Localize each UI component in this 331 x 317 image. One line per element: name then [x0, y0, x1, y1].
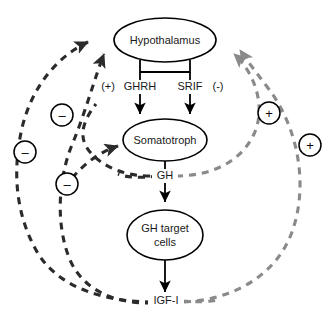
diagram-canvas: Hypothalamus Somatotroph GH target cells…	[0, 0, 331, 317]
label-igf1: IGF-I	[153, 294, 178, 306]
node-somatotroph-label: Somatotroph	[134, 134, 197, 146]
label-ghrh-sign: (+)	[101, 80, 115, 92]
label-srif: SRIF	[177, 80, 202, 92]
label-srif-sign: (-)	[213, 80, 224, 92]
badge-minus-outer-left-label: –	[21, 145, 29, 160]
node-hypothalamus-label: Hypothalamus	[130, 34, 201, 46]
node-gh-target-cells-label-line1: GH target	[141, 222, 189, 234]
badge-minus-upper-left-label: –	[58, 108, 66, 123]
edge-to-somatotroph-dashed	[72, 146, 118, 178]
label-gh: GH	[157, 169, 174, 181]
badge-plus-inner-right-label: +	[265, 106, 273, 121]
badge-minus-lower-left-label: –	[63, 177, 71, 192]
gh-axis-diagram: Hypothalamus Somatotroph GH target cells…	[0, 0, 331, 317]
label-ghrh: GHRH	[124, 80, 156, 92]
badge-plus-outer-right-label: +	[306, 138, 314, 153]
node-gh-target-cells-label-line2: cells	[154, 236, 177, 248]
edge-igf1-dashed-right	[182, 300, 218, 302]
